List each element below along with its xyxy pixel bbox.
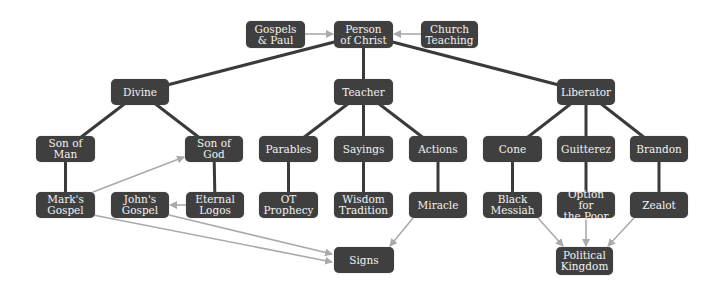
node-actions[interactable]: Actions — [409, 136, 467, 162]
node-divine[interactable]: Divine — [111, 79, 169, 105]
node-son-of-man[interactable]: Son of Man — [36, 136, 95, 162]
node-johns-gospel[interactable]: John's Gospel — [111, 192, 169, 218]
node-eternal-logos[interactable]: Eternal Logos — [186, 192, 244, 218]
node-brandon[interactable]: Brandon — [630, 136, 688, 162]
arrow-edge — [608, 218, 634, 246]
node-cone[interactable]: Cone — [483, 136, 542, 162]
node-person-of-christ[interactable]: Person of Christ — [334, 21, 393, 48]
node-church-teaching[interactable]: Church Teaching — [421, 21, 478, 48]
node-gospels-paul[interactable]: Gospels & Paul — [246, 21, 305, 48]
node-ot-prophecy[interactable]: OT Prophecy — [259, 192, 318, 218]
node-political-kingdom[interactable]: Political Kingdom — [556, 247, 613, 275]
node-marks-gospel[interactable]: Mark's Gospel — [36, 192, 95, 218]
node-signs[interactable]: Signs — [334, 247, 394, 273]
node-parables[interactable]: Parables — [259, 136, 318, 162]
node-miracle[interactable]: Miracle — [409, 192, 467, 218]
arrow-edge — [538, 218, 563, 246]
node-option-for-the-poor[interactable]: Option for the Poor — [557, 192, 615, 218]
node-teacher[interactable]: Teacher — [334, 79, 393, 105]
node-zealot[interactable]: Zealot — [630, 192, 688, 218]
node-black-messiah[interactable]: Black Messiah — [483, 192, 542, 218]
arrow-edge — [93, 157, 184, 192]
arrow-edge — [93, 215, 332, 262]
tree-edges — [66, 35, 660, 206]
node-son-of-god[interactable]: Son of God — [185, 136, 243, 162]
node-wisdom-tradition[interactable]: Wisdom Tradition — [334, 192, 393, 218]
concept-diagram: Gospels & Paul Person of Christ Church T… — [0, 0, 722, 292]
node-liberator[interactable]: Liberator — [557, 79, 615, 105]
node-guitterez[interactable]: Guitterez — [557, 136, 615, 162]
arrow-edge — [390, 218, 413, 246]
node-sayings[interactable]: Sayings — [334, 136, 393, 162]
